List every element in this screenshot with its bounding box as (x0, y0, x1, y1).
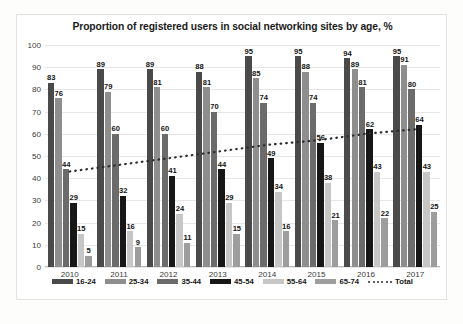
chart-container: Proportion of registered users in social… (16, 14, 447, 300)
bar-value-label: 89 (146, 60, 154, 69)
legend-item-16-24[interactable]: 16-24 (52, 277, 96, 286)
bar-value-label: 91 (400, 55, 408, 64)
bar-value-label: 81 (153, 78, 161, 87)
bar-65-74: 21 (332, 220, 338, 267)
bar-value-label: 15 (233, 224, 241, 233)
bar-value-label: 60 (111, 124, 119, 133)
bar-value-label: 21 (331, 211, 339, 220)
bar-65-74: 22 (381, 218, 387, 267)
y-axis-tick: 90 (19, 63, 41, 72)
bar-35-44: 70 (211, 112, 217, 267)
bar-25-34: 81 (203, 87, 209, 267)
bar-value-label: 38 (324, 173, 332, 182)
bar-45-54: 44 (218, 169, 224, 267)
legend-item-25-34[interactable]: 25-34 (105, 277, 149, 286)
legend-item-55-64[interactable]: 55-64 (263, 277, 307, 286)
bar-value-label: 95 (393, 47, 401, 56)
legend-label: 35-44 (181, 277, 201, 286)
bar-35-44: 81 (359, 87, 365, 267)
y-axis-tick: 60 (19, 129, 41, 138)
bar-value-label: 83 (47, 73, 55, 82)
bar-value-label: 56 (316, 133, 324, 142)
bar-value-label: 25 (430, 202, 438, 211)
bar-group-2017: 9591806443252017 (391, 45, 440, 267)
legend-item-35-44[interactable]: 35-44 (157, 277, 201, 286)
bar-16-24: 95 (393, 56, 399, 267)
bar-value-label: 81 (358, 78, 366, 87)
bar-groups: 8376442915520108979603216920118981604124… (45, 45, 440, 267)
bar-value-label: 44 (218, 160, 226, 169)
bar-group-2015: 9588745638212015 (292, 45, 341, 267)
bar-55-64: 16 (127, 231, 133, 267)
bar-group-2014: 9585744934162014 (243, 45, 292, 267)
bar-value-label: 43 (373, 162, 381, 171)
y-axis-tick: 0 (19, 263, 41, 272)
bar-25-34: 81 (154, 87, 160, 267)
bar-45-54: 29 (70, 203, 76, 267)
chart-screenshot: Proportion of registered users in social… (0, 0, 463, 324)
bar-16-24: 89 (147, 69, 153, 267)
y-axis-tick: 30 (19, 196, 41, 205)
legend-swatch (315, 279, 336, 284)
legend-swatch (157, 279, 178, 284)
bar-65-74: 25 (431, 212, 437, 268)
bars: 959180644325 (391, 45, 440, 267)
bar-value-label: 89 (351, 60, 359, 69)
bar-65-74: 16 (283, 231, 289, 267)
legend-item-Total[interactable]: Total (368, 277, 413, 286)
bars: 958574493416 (243, 45, 292, 267)
plot-area: 0102030405060708090100 83764429155201089… (45, 45, 440, 267)
bar-value-label: 24 (176, 204, 184, 213)
bar-55-64: 43 (423, 172, 429, 267)
bar-45-54: 62 (366, 129, 372, 267)
legend-item-45-54[interactable]: 45-54 (210, 277, 254, 286)
bar-65-74: 11 (184, 243, 190, 267)
bar-16-24: 95 (245, 56, 251, 267)
bar-value-label: 74 (260, 93, 268, 102)
bar-value-label: 44 (62, 160, 70, 169)
bar-65-74: 5 (85, 256, 91, 267)
bar-16-24: 94 (344, 58, 350, 267)
bar-16-24: 83 (48, 83, 54, 267)
chart-title: Proportion of registered users in social… (17, 21, 448, 32)
bars: 948981624322 (341, 45, 390, 267)
bar-25-34: 79 (105, 92, 111, 267)
bar-value-label: 94 (343, 49, 351, 58)
chart-legend: 16-2425-3435-4445-5455-6465-74Total (17, 277, 448, 286)
bar-45-54: 56 (317, 143, 323, 267)
bar-55-64: 29 (226, 203, 232, 267)
legend-swatch (105, 279, 126, 284)
bar-value-label: 29 (225, 193, 233, 202)
bar-value-label: 16 (282, 222, 290, 231)
bar-value-label: 85 (252, 69, 260, 78)
bar-value-label: 64 (415, 115, 423, 124)
bar-value-label: 74 (309, 93, 317, 102)
legend-swatch (52, 279, 73, 284)
bar-value-label: 34 (275, 182, 283, 191)
legend-label: 16-24 (76, 277, 96, 286)
bar-55-64: 15 (78, 234, 84, 267)
bar-value-label: 41 (168, 166, 176, 175)
bar-25-34: 91 (401, 65, 407, 267)
bar-value-label: 60 (161, 124, 169, 133)
bar-35-44: 80 (408, 89, 414, 267)
legend-label: Total (395, 277, 413, 286)
bar-35-44: 74 (260, 103, 266, 267)
bar-group-2010: 837644291552010 (45, 45, 94, 267)
bar-45-54: 41 (169, 176, 175, 267)
bar-group-2011: 897960321692011 (94, 45, 143, 267)
bar-55-64: 24 (176, 214, 182, 267)
bar-55-64: 38 (325, 183, 331, 267)
bars: 958874563821 (292, 45, 341, 267)
bar-value-label: 80 (408, 80, 416, 89)
bar-value-label: 32 (119, 186, 127, 195)
bar-value-label: 29 (70, 193, 78, 202)
bar-16-24: 89 (97, 69, 103, 267)
bar-35-44: 74 (310, 103, 316, 267)
bar-55-64: 43 (374, 172, 380, 267)
bar-65-74: 15 (233, 234, 239, 267)
bar-group-2012: 8981604124112012 (144, 45, 193, 267)
bar-55-64: 34 (275, 192, 281, 267)
gridline-0 (45, 267, 440, 268)
legend-item-65-74[interactable]: 65-74 (315, 277, 359, 286)
